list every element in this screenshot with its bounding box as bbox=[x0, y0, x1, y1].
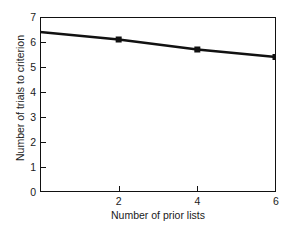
series-line-trials bbox=[40, 32, 276, 57]
y-axis-title: Number of trials to criterion bbox=[14, 8, 26, 188]
data-point-marker bbox=[116, 37, 122, 43]
y-axis-tick-5 bbox=[40, 67, 46, 68]
y-axis-tick-2 bbox=[40, 142, 46, 143]
data-point-marker bbox=[273, 54, 277, 60]
x-axis-label-2: 2 bbox=[116, 195, 122, 207]
y-axis-tick-7 bbox=[40, 17, 46, 18]
y-axis-tick-3 bbox=[40, 117, 46, 118]
y-axis-tick-6 bbox=[40, 42, 46, 43]
x-axis-label-4: 4 bbox=[194, 195, 200, 207]
x-axis-label-6: 6 bbox=[273, 195, 279, 207]
chart-data-layer bbox=[40, 17, 276, 192]
y-axis-tick-1 bbox=[40, 167, 46, 168]
chart-figure: 7 6 5 4 3 2 1 0 2 4 6 Number of prior li… bbox=[0, 0, 296, 237]
data-point-marker bbox=[194, 47, 200, 53]
x-axis-tick-2 bbox=[119, 186, 120, 192]
x-axis-title: Number of prior lists bbox=[40, 209, 276, 221]
x-axis-tick-4 bbox=[197, 186, 198, 192]
y-axis-tick-4 bbox=[40, 92, 46, 93]
